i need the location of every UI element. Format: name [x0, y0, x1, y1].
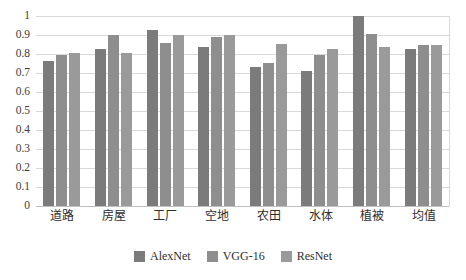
y-axis-tick-label: 0.7: [16, 67, 30, 79]
y-axis-labels: 10.90.80.70.60.50.40.30.20.10: [0, 16, 32, 206]
legend-swatch-icon: [207, 251, 218, 262]
bar-group: [36, 16, 88, 206]
x-axis-tick-label: 工厂: [140, 209, 192, 223]
bar: [108, 35, 119, 206]
legend-swatch-icon: [134, 251, 145, 262]
bar: [224, 35, 235, 206]
y-axis-tick-label: 1: [24, 10, 30, 22]
bar: [173, 35, 184, 206]
bar: [327, 49, 338, 206]
y-axis-tick-label: 0.3: [16, 143, 30, 155]
bar: [379, 47, 390, 206]
bar: [431, 45, 442, 207]
x-axis-tick-label: 植被: [347, 209, 399, 223]
bar: [250, 67, 261, 206]
bar-group: [243, 16, 295, 206]
bar-group: [294, 16, 346, 206]
bar-group: [346, 16, 398, 206]
legend-label: ResNet: [297, 250, 332, 262]
chart-legend: AlexNetVGG-16ResNet: [0, 250, 466, 262]
legend-label: AlexNet: [150, 250, 191, 262]
bar: [198, 47, 209, 206]
plot-area: [36, 16, 450, 206]
legend-label: VGG-16: [223, 250, 265, 262]
bar-groups: [36, 16, 449, 206]
bar: [366, 34, 377, 206]
bar-group: [191, 16, 243, 206]
bar: [405, 49, 416, 206]
bar: [263, 63, 274, 206]
bar: [121, 53, 132, 206]
legend-item[interactable]: ResNet: [281, 250, 332, 262]
bar: [418, 45, 429, 207]
x-axis-tick-label: 空地: [191, 209, 243, 223]
bar: [276, 44, 287, 206]
y-axis-tick-label: 0.6: [16, 86, 30, 98]
bar-group: [397, 16, 449, 206]
bar: [43, 61, 54, 206]
bar: [147, 30, 158, 206]
y-axis-tick-label: 0.5: [16, 105, 30, 117]
y-axis-tick-label: 0.1: [16, 181, 30, 193]
x-axis-tick-label: 均值: [398, 209, 450, 223]
bar: [56, 55, 67, 206]
axis-baseline: [36, 206, 449, 207]
x-axis-labels: 道路房屋工厂空地农田水体植被均值: [36, 209, 450, 223]
bar: [95, 49, 106, 206]
bar: [353, 16, 364, 206]
bar-group: [139, 16, 191, 206]
y-axis-tick-label: 0.2: [16, 162, 30, 174]
bar: [301, 71, 312, 206]
legend-item[interactable]: AlexNet: [134, 250, 191, 262]
legend-item[interactable]: VGG-16: [207, 250, 265, 262]
bar: [314, 55, 325, 206]
plot-wrapper: [36, 16, 450, 206]
bar: [69, 53, 80, 206]
bar-group: [88, 16, 140, 206]
x-axis-tick-label: 水体: [295, 209, 347, 223]
bar: [211, 37, 222, 206]
legend-swatch-icon: [281, 251, 292, 262]
x-axis-tick-label: 农田: [243, 209, 295, 223]
y-axis-tick-label: 0.8: [16, 48, 30, 60]
y-axis-tick-label: 0.9: [16, 29, 30, 41]
bar-chart: 10.90.80.70.60.50.40.30.20.10 道路房屋工厂空地农田…: [0, 0, 466, 280]
y-axis-tick-label: 0.4: [16, 124, 30, 136]
x-axis-tick-label: 房屋: [88, 209, 140, 223]
x-axis-tick-label: 道路: [36, 209, 88, 223]
bar: [160, 43, 171, 206]
y-axis-tick-label: 0: [24, 200, 30, 212]
